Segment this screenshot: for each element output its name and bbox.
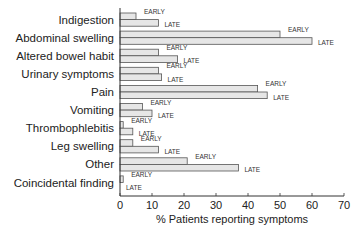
category-label: Indigestion: [58, 14, 114, 26]
bar-label-late: LATE: [318, 39, 334, 46]
bar-label-late: LATE: [158, 112, 174, 119]
bar-label-late: LATE: [273, 94, 289, 101]
bar-label-early: EARLY: [195, 153, 216, 160]
x-tick-label: 70: [338, 199, 350, 211]
bar-label-late: LATE: [168, 76, 184, 83]
bar-late: [120, 128, 133, 135]
category-label: Abdominal swelling: [16, 32, 114, 44]
bar-early: [120, 31, 280, 38]
bar-late: [120, 146, 158, 153]
category-label: Leg swelling: [51, 140, 114, 152]
category-label: Other: [85, 158, 114, 170]
bar-early: [120, 104, 142, 111]
bar-label-early: EARLY: [150, 99, 171, 106]
bar-label-early: EARLY: [166, 62, 187, 69]
category-label: Urinary symptoms: [21, 68, 114, 80]
x-axis-title: % Patients reporting symptoms: [156, 213, 309, 225]
bar-early: [120, 140, 133, 147]
category-label: Thrombophlebitis: [26, 122, 114, 134]
bar-label-early: EARLY: [288, 26, 309, 33]
x-tick-label: 10: [146, 199, 158, 211]
bar-early: [120, 67, 158, 74]
bar-early: [120, 49, 158, 56]
x-tick-label: 50: [274, 199, 286, 211]
bar-late: [120, 74, 162, 81]
bar-label-late: LATE: [164, 148, 180, 155]
bar-label-early: EARLY: [266, 80, 287, 87]
bar-label-late: LATE: [164, 21, 180, 28]
x-tick-label: 60: [306, 199, 318, 211]
category-label: Pain: [91, 86, 114, 98]
bar-early: [120, 158, 187, 165]
x-tick-label: 40: [242, 199, 254, 211]
bar-label-early: EARLY: [131, 171, 152, 178]
bar-label-early: EARLY: [144, 8, 165, 15]
bar-early: [120, 13, 136, 20]
category-label: Coincidental finding: [14, 177, 114, 189]
bar-early: [120, 85, 258, 92]
x-tick-label: 20: [178, 199, 190, 211]
bar-late: [120, 38, 312, 45]
category-label: Altered bowel habit: [16, 50, 115, 62]
x-tick-label: 30: [210, 199, 222, 211]
x-tick-label: 0: [117, 199, 123, 211]
bar-late: [120, 92, 267, 99]
horizontal-bar-chart: IndigestionEARLYLATEAbdominal swellingEA…: [0, 0, 358, 231]
bar-label-early: EARLY: [131, 117, 152, 124]
bar-label-late: LATE: [244, 166, 260, 173]
bar-label-late: LATE: [126, 184, 142, 191]
category-label: Vomiting: [70, 104, 114, 116]
bar-label-early: EARLY: [166, 44, 187, 51]
bar-late: [120, 20, 158, 27]
bar-label-early: EARLY: [141, 135, 162, 142]
